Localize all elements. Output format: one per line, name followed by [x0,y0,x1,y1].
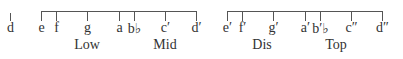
note-label: g′ [268,20,278,36]
note-label: f′ [239,20,247,36]
register-label: Mid [153,37,176,53]
note-label: b♭ [128,20,142,37]
note-label: c′ [161,20,170,36]
note-label: d′ [191,20,201,36]
note-label: g [84,20,91,36]
register-label: Dis [252,37,271,53]
note-label: e [38,20,44,36]
note-label: e′ [223,20,232,36]
register-label: Low [74,37,100,53]
note-label: d″ [376,20,389,36]
note-label: a [116,20,122,36]
note-label: c″ [345,20,357,36]
note-label: f [54,20,59,36]
note-label: a′ [301,20,310,36]
register-label: Top [325,37,347,53]
note-label: d [7,20,14,36]
note-label: b′♭ [312,20,329,37]
